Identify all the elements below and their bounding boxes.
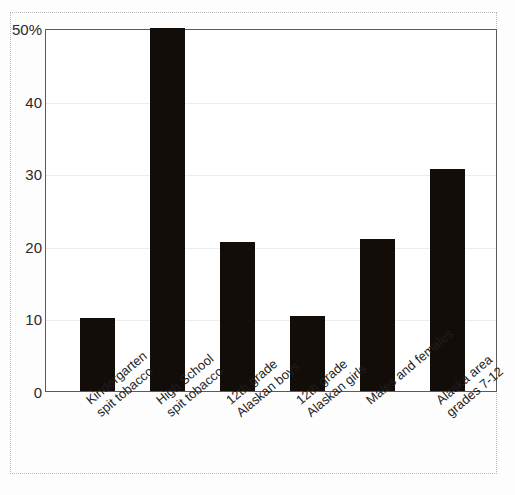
y-axis-tick-label: 20 <box>2 238 42 255</box>
y-axis-tick-label: 30 <box>2 166 42 183</box>
y-axis-tick-label: 10 <box>2 311 42 328</box>
bar <box>150 28 185 391</box>
plot-area <box>45 29 497 392</box>
y-axis-tick-label: 40 <box>2 93 42 110</box>
bar-chart-figure: 01020304050% Kindergartenspit tobaccoHig… <box>0 0 515 495</box>
gridline <box>46 248 496 249</box>
y-axis-tick-label: 50% <box>2 21 42 38</box>
y-axis-tick-labels: 01020304050% <box>0 29 42 392</box>
x-axis-tick-labels: Kindergartenspit tobaccoHigh Schoolspit … <box>0 396 515 495</box>
gridline <box>46 175 496 176</box>
bar <box>220 242 255 391</box>
bar <box>430 169 465 391</box>
gridline <box>46 103 496 104</box>
